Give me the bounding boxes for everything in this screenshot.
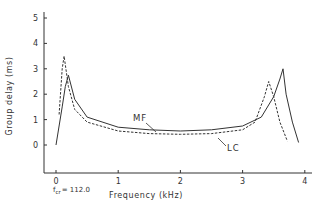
x-axis-title: Frequency (kHz) <box>109 191 183 200</box>
lc-leader <box>218 138 226 146</box>
y-tick-label: 3 <box>33 65 38 74</box>
fcr-annotation: fcr= 112.0 <box>53 186 90 195</box>
series-mf-line <box>56 69 299 145</box>
mf-leader <box>146 123 156 132</box>
x-tick-label: 4 <box>302 177 307 186</box>
y-tick-label: 0 <box>33 141 38 150</box>
lc-annotation: LC <box>227 143 240 153</box>
y-tick-label: 1 <box>33 116 38 125</box>
group-delay-chart: 012345 01234 Group delay (ms) Frequency … <box>0 0 327 213</box>
y-tick-label: 2 <box>33 90 38 99</box>
x-tick-label: 3 <box>240 177 245 186</box>
x-tick-label: 0 <box>53 177 58 186</box>
x-tick-label: 1 <box>116 177 121 186</box>
y-tick-label: 4 <box>33 39 38 48</box>
y-axis-title: Group delay (ms) <box>5 56 14 135</box>
x-ticks: 01234 <box>53 170 307 186</box>
y-ticks: 012345 <box>33 14 47 150</box>
series-lc-line <box>59 56 287 141</box>
mf-annotation: MF <box>133 113 147 123</box>
x-tick-label: 2 <box>178 177 183 186</box>
y-tick-label: 5 <box>33 14 38 23</box>
